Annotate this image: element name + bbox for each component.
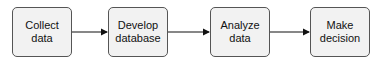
node-collect-data: Collect data — [12, 7, 72, 57]
node-label: Analyze data — [220, 19, 259, 45]
node-develop-database: Develop database — [108, 7, 168, 57]
node-label: Make decision — [320, 19, 360, 45]
node-label: Collect data — [25, 19, 59, 45]
node-analyze-data: Analyze data — [210, 7, 270, 57]
node-make-decision: Make decision — [310, 7, 370, 57]
node-label: Develop database — [115, 19, 160, 45]
